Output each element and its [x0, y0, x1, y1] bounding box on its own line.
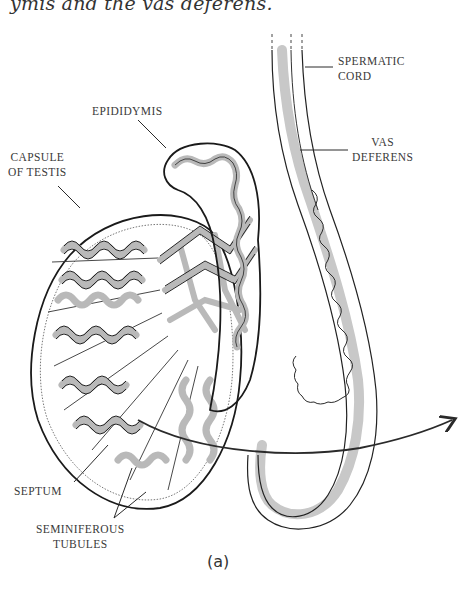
label-seminiferous-tubules: SEMINIFEROUS TUBULES [36, 522, 125, 552]
label-capsule-line1: CAPSULE [8, 150, 67, 165]
testis-diagram [0, 0, 466, 592]
label-spermatic-cord-line1: SPERMATIC [338, 54, 405, 69]
label-capsule-of-testis: CAPSULE OF TESTIS [8, 150, 67, 180]
label-vas-deferens-line2: DEFERENS [352, 150, 413, 165]
label-epididymis: EPIDIDYMIS [92, 104, 162, 119]
panel-letter: (a) [207, 552, 229, 571]
label-seminiferous-line1: SEMINIFEROUS [36, 522, 125, 537]
spermatic-cord [248, 34, 377, 529]
label-septum-text: SEPTUM [14, 484, 62, 499]
label-seminiferous-line2: TUBULES [36, 537, 125, 552]
label-septum: SEPTUM [14, 484, 62, 499]
label-spermatic-cord-line2: CORD [338, 69, 405, 84]
label-vas-deferens: VAS DEFERENS [352, 135, 413, 165]
label-epididymis-text: EPIDIDYMIS [92, 104, 162, 119]
label-vas-deferens-line1: VAS [352, 135, 413, 150]
label-spermatic-cord: SPERMATIC CORD [338, 54, 405, 84]
label-capsule-line2: OF TESTIS [8, 165, 67, 180]
